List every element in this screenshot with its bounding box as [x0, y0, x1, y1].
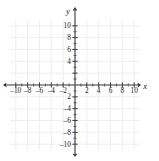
y-axis-tick-label: 2 [67, 92, 71, 101]
x-axis-tick-label: –2 [59, 86, 68, 95]
x-axis-right-arrow-icon [138, 83, 141, 88]
x-axis-tick-label: –6 [35, 86, 44, 95]
x-axis-tick-label: 4 [97, 86, 101, 95]
y-axis-tick-label: 8 [67, 33, 71, 42]
x-axis-tick-label: –10 [9, 86, 21, 95]
x-axis-tick-label: –8 [23, 86, 32, 95]
coordinate-plane-figure: –10–8–6–4–2246810 108642–4–6–8–10 x y [0, 0, 159, 161]
x-axis-left-arrow-icon [3, 83, 6, 88]
y-axis-up-arrow-icon [73, 7, 78, 10]
graph-canvas: –10–8–6–4–2246810 108642–4–6–8–10 x y [0, 0, 159, 161]
y-axis-tick-label: –6 [63, 116, 72, 125]
x-axis-tick-label: 10 [131, 86, 139, 95]
y-axis-tick-label: –4 [63, 104, 72, 113]
y-axis-tick-label: –10 [59, 140, 71, 149]
x-axis-tick-label: 6 [109, 86, 113, 95]
y-axis-down-arrow-icon [73, 154, 78, 157]
x-axis-tick-label: 2 [85, 86, 89, 95]
y-axis-tick-label: –8 [63, 128, 72, 137]
x-axis-tick-label: –4 [47, 86, 56, 95]
y-axis-tick-label: 10 [64, 21, 72, 30]
y-axis-tick-label: 4 [67, 57, 71, 66]
y-axis-label: y [65, 6, 70, 16]
axis-arrowheads [3, 7, 141, 157]
x-axis-label: x [142, 81, 147, 91]
y-axis-tick-label: 6 [67, 45, 71, 54]
x-axis-tick-label: 8 [121, 86, 125, 95]
